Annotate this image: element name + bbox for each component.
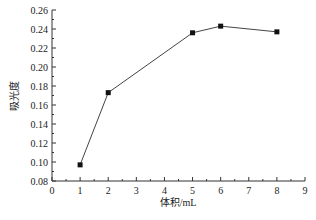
x-tick-label: 7 xyxy=(246,185,251,196)
data-point-marker xyxy=(78,162,83,167)
y-tick-label: 0.08 xyxy=(31,176,49,187)
data-series xyxy=(78,24,280,168)
y-tick-label: 0.22 xyxy=(31,43,49,54)
y-tick-label: 0.24 xyxy=(31,24,49,35)
x-tick-label: 8 xyxy=(274,185,279,196)
x-tick-label: 6 xyxy=(218,185,223,196)
y-tick-label: 0.18 xyxy=(31,81,49,92)
data-point-marker xyxy=(190,30,195,35)
series-line xyxy=(80,26,277,165)
y-tick-label: 0.20 xyxy=(31,62,49,73)
y-tick-label: 0.12 xyxy=(31,138,49,149)
y-tick-label: 0.26 xyxy=(31,5,49,16)
data-point-marker xyxy=(218,24,223,29)
y-tick-label: 0.10 xyxy=(31,157,49,168)
y-axis-title: 吸光度 xyxy=(8,81,20,111)
x-tick-label: 9 xyxy=(303,185,308,196)
y-axis: 0.080.100.120.140.160.180.200.220.240.26 xyxy=(31,5,57,187)
x-tick-label: 0 xyxy=(50,185,55,196)
x-axis: 0123456789 xyxy=(50,177,308,196)
x-tick-label: 5 xyxy=(190,185,195,196)
x-axis-title: 体积/mL xyxy=(160,197,197,208)
line-chart: 0.080.100.120.140.160.180.200.220.240.26… xyxy=(0,0,316,220)
data-point-marker xyxy=(274,29,279,34)
data-point-marker xyxy=(106,90,111,95)
y-tick-label: 0.16 xyxy=(31,100,49,111)
x-tick-label: 4 xyxy=(162,185,167,196)
x-tick-label: 1 xyxy=(78,185,83,196)
y-tick-label: 0.14 xyxy=(31,119,49,130)
x-tick-label: 2 xyxy=(106,185,111,196)
x-tick-label: 3 xyxy=(134,185,139,196)
